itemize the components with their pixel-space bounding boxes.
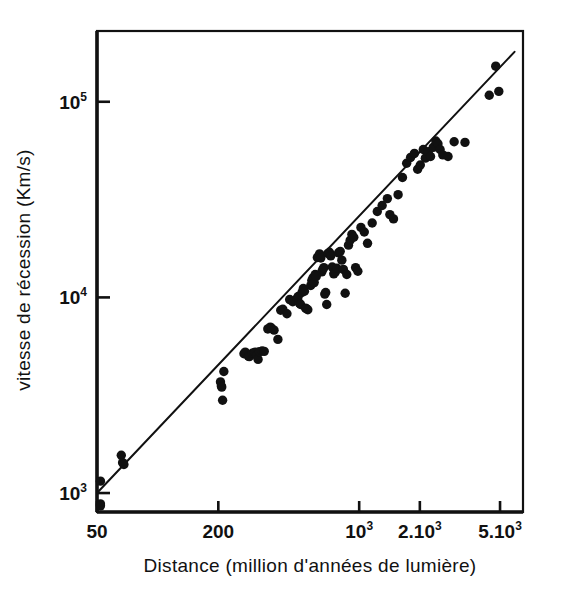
data-point xyxy=(353,267,362,276)
data-point xyxy=(303,305,312,314)
data-point xyxy=(349,233,358,242)
y-tick-label-1: 104 xyxy=(59,285,87,308)
data-point xyxy=(494,87,503,96)
x-tick-label-3: 2.103 xyxy=(398,519,442,542)
hubble-fit-line xyxy=(97,52,515,493)
data-point xyxy=(217,382,226,391)
data-point xyxy=(485,91,494,100)
data-point xyxy=(319,263,328,272)
data-point xyxy=(260,347,269,356)
data-point xyxy=(426,152,435,161)
data-point xyxy=(383,194,392,203)
data-point xyxy=(340,289,349,298)
data-point xyxy=(282,309,291,318)
data-point xyxy=(219,367,228,376)
fit-line xyxy=(97,52,515,493)
y-axis-label: vitesse de récession (Km/s) xyxy=(13,149,34,390)
data-point xyxy=(273,335,282,344)
data-point xyxy=(389,214,398,223)
data-point xyxy=(410,149,419,158)
x-tick-label-2: 103 xyxy=(345,519,373,542)
x-axis-label: Distance (million d'années de lumière) xyxy=(144,555,477,576)
y-tick-label-2: 105 xyxy=(59,90,87,113)
frame-rect xyxy=(97,31,523,512)
data-point xyxy=(360,227,369,236)
y-tick-label-0: 103 xyxy=(59,481,87,504)
data-point xyxy=(398,173,407,182)
data-point xyxy=(337,255,346,264)
data-point xyxy=(367,218,376,227)
data-point xyxy=(449,137,458,146)
data-point xyxy=(269,325,278,334)
data-point xyxy=(96,476,105,485)
x-tick-label-1: 200 xyxy=(202,521,234,542)
data-point xyxy=(342,270,351,279)
data-point xyxy=(322,300,331,309)
data-point xyxy=(119,460,128,469)
data-point xyxy=(218,396,227,405)
data-point xyxy=(335,247,344,256)
hubble-diagram-figure: 502001032.1035.103103104105 Distance (mi… xyxy=(0,0,561,602)
data-point xyxy=(321,288,330,297)
data-point xyxy=(393,190,402,199)
data-point xyxy=(96,501,105,510)
x-tick-label-4: 5.103 xyxy=(478,519,522,542)
data-point xyxy=(491,61,500,70)
data-point xyxy=(460,138,469,147)
chart-canvas: 502001032.1035.103103104105 Distance (mi… xyxy=(0,0,561,602)
data-point xyxy=(363,239,372,248)
plot-frame xyxy=(97,31,523,512)
x-tick-label-0: 50 xyxy=(86,521,107,542)
data-point xyxy=(443,152,452,161)
